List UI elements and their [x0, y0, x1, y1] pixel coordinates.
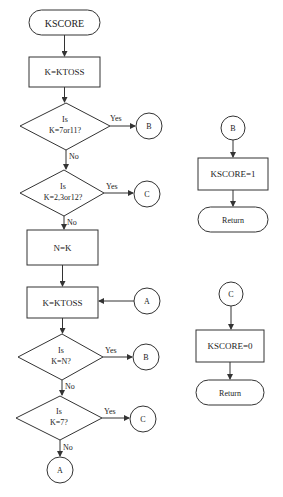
connector-b-label: B: [146, 122, 151, 131]
process-kscore-1-label: KSCORE=1: [210, 169, 255, 179]
process-n-equals-k-label: N=K: [53, 243, 72, 253]
start-terminator: KSCORE: [29, 10, 100, 35]
no-label: No: [65, 382, 75, 391]
process-ktoss-1-label: K=KTOSS: [45, 67, 85, 77]
no-label: No: [67, 218, 77, 227]
no-label: No: [69, 152, 79, 161]
decision-2-3-or-12: Is K=2,3or12?: [20, 170, 104, 216]
decision-1-line1: Is: [62, 115, 68, 124]
connector-a-label: A: [144, 297, 150, 306]
connector-b-label: B: [143, 353, 148, 362]
branch-c-connector-label: C: [228, 290, 233, 299]
process-kscore-0-label: KSCORE=0: [207, 341, 253, 351]
return-terminator-c: Return: [196, 380, 264, 405]
no-label: No: [63, 443, 73, 452]
process-ktoss-2: K=KTOSS: [27, 287, 98, 318]
process-ktoss-1: K=KTOSS: [29, 57, 100, 87]
connector-a-out: A: [47, 457, 73, 483]
yes-label: Yes: [110, 114, 122, 123]
yes-label: Yes: [105, 346, 117, 355]
connector-a-in: A: [134, 288, 160, 314]
flowchart-canvas: KSCORE K=KTOSS Is K=7or11? Yes B No Is K…: [0, 0, 283, 497]
process-n-equals-k: N=K: [27, 230, 98, 265]
decision-k-equals-n: Is K=N?: [18, 334, 103, 380]
return-label: Return: [222, 216, 244, 225]
decision-1-line2: K=7or11?: [49, 126, 82, 135]
connector-b-2: B: [133, 344, 159, 370]
return-label: Return: [219, 389, 241, 398]
connector-c-2: C: [130, 406, 156, 432]
process-ktoss-2-label: K=KTOSS: [43, 298, 83, 308]
decision-2-line2: K=2,3or12?: [44, 193, 83, 202]
decision-2-line1: Is: [60, 182, 66, 191]
start-label: KSCORE: [45, 18, 84, 29]
decision-3-line1: Is: [58, 346, 64, 355]
connector-c-label: C: [144, 190, 149, 199]
connector-c-1: C: [134, 181, 160, 207]
branch-b-connector-label: B: [230, 124, 235, 133]
connector-b-1: B: [136, 113, 162, 139]
process-kscore-1: KSCORE=1: [198, 158, 268, 190]
decision-7-or-11: Is K=7or11?: [20, 103, 110, 150]
yes-label: Yes: [106, 182, 118, 191]
process-kscore-0: KSCORE=0: [196, 330, 264, 362]
decision-k-equals-7: Is K=7?: [16, 396, 102, 440]
decision-4-line2: K=7?: [50, 418, 68, 427]
yes-label: Yes: [104, 407, 116, 416]
decision-3-line2: K=N?: [51, 357, 71, 366]
branch-b-connector: B: [221, 116, 245, 140]
connector-a-label: A: [57, 466, 63, 475]
connector-c-label: C: [140, 415, 145, 424]
branch-c-connector: C: [219, 282, 243, 306]
decision-4-line1: Is: [56, 407, 62, 416]
return-terminator-b: Return: [198, 207, 268, 232]
